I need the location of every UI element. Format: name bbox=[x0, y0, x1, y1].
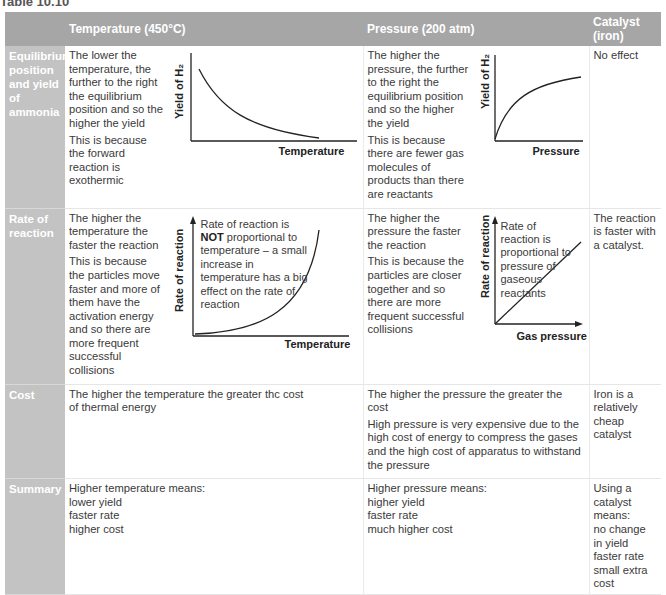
cell-pressure: The higher the pressure, the further to … bbox=[363, 46, 589, 208]
row-label: Cost bbox=[5, 384, 65, 479]
y-axis-label: Yield of H₂ bbox=[173, 64, 187, 119]
cell-pressure: The higher the pressure the greater the … bbox=[363, 384, 589, 479]
cell-catalyst: The reaction is faster with a catalyst. bbox=[589, 208, 661, 384]
cell-temperature: The lower the temperature, the further t… bbox=[65, 46, 363, 208]
x-axis-label: Temperature bbox=[285, 338, 351, 352]
y-axis-label: Rate of reaction bbox=[479, 214, 493, 297]
comparison-table: Temperature (450°C) Pressure (200 atm) C… bbox=[5, 12, 661, 595]
header-catalyst: Catalyst (iron) bbox=[589, 12, 661, 46]
table-title: Table 10.10 bbox=[0, 0, 69, 9]
table-row-rate: Rate of reaction The higher the temperat… bbox=[5, 208, 661, 384]
x-axis-label: Temperature bbox=[279, 145, 345, 159]
cell-catalyst: Using a catalyst means: no change in yie… bbox=[589, 479, 661, 595]
yield-vs-pressure-graph: Yield of H₂ Pressure bbox=[477, 49, 585, 161]
y-axis-label: Rate of reaction bbox=[173, 228, 187, 311]
cell-catalyst: Iron is a relatively cheap catalyst bbox=[589, 384, 661, 479]
cell-temperature: The higher the temperature the greater t… bbox=[65, 384, 363, 479]
cell-temperature: Higher temperature means: lower yield fa… bbox=[65, 479, 363, 595]
header-blank bbox=[5, 12, 65, 46]
x-axis-label: Pressure bbox=[533, 145, 580, 159]
row-label: Rate of reaction bbox=[5, 208, 65, 384]
yield-vs-temperature-graph: Yield of H₂ Temperature bbox=[169, 49, 359, 161]
header-temperature: Temperature (450°C) bbox=[65, 12, 363, 46]
row-label: Summary bbox=[5, 479, 65, 595]
graph-annotation: Rate of reaction isNOT proportional to t… bbox=[201, 218, 311, 312]
cell-temperature: The higher the temperature the faster th… bbox=[65, 208, 363, 384]
graph-annotation: Rate of reaction is proportional to pres… bbox=[501, 220, 577, 300]
table-row-equilibrium: Equilibrium position and yield of ammoni… bbox=[5, 46, 661, 208]
table-row-summary: Summary Higher temperature means: lower … bbox=[5, 479, 661, 595]
header-pressure: Pressure (200 atm) bbox=[363, 12, 589, 46]
row-label: Equilibrium position and yield of ammoni… bbox=[5, 46, 65, 208]
rate-vs-temperature-graph: Rate of reaction Rate of reaction isNOT … bbox=[169, 212, 359, 350]
cell-catalyst: No effect bbox=[589, 46, 661, 208]
cell-pressure: The higher the pressure the faster the r… bbox=[363, 208, 589, 384]
table-row-cost: Cost The higher the temperature the grea… bbox=[5, 384, 661, 479]
cell-pressure: Higher pressure means: higher yield fast… bbox=[363, 479, 589, 595]
y-axis-label: Yield of H₂ bbox=[479, 54, 493, 109]
rate-vs-pressure-graph: Rate of reaction Rate of reaction is pro… bbox=[477, 212, 585, 350]
x-axis-label: Gas pressure bbox=[517, 330, 587, 344]
header-row: Temperature (450°C) Pressure (200 atm) C… bbox=[5, 12, 661, 46]
